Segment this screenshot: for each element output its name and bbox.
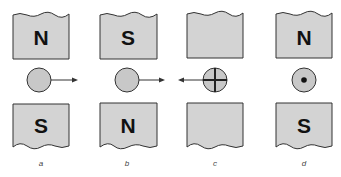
arrow-head [72, 78, 78, 83]
panel-label: a [39, 159, 44, 168]
pole-label-bottom: S [34, 114, 48, 137]
arrow-head [159, 78, 165, 83]
pole-label-bottom: S [297, 114, 311, 137]
pole-label-top: N [296, 26, 311, 49]
panel-a: N S a [13, 12, 78, 168]
pole-label-top: S [121, 26, 135, 49]
panel-b: S N b [100, 12, 165, 168]
magnet-top [187, 11, 243, 58]
arrow-head [178, 78, 184, 83]
panel-c: c [178, 11, 243, 168]
conductor [115, 68, 139, 92]
conductor [27, 68, 51, 92]
pole-label-bottom: N [120, 114, 135, 137]
panel-label: c [213, 159, 217, 168]
pole-label-top: N [33, 26, 48, 49]
panel-label: b [125, 159, 130, 168]
magnet-bottom [187, 103, 243, 149]
dot-icon [301, 77, 307, 83]
panel-label: d [302, 159, 307, 168]
panel-d: N S d [276, 11, 332, 168]
magnet-diagram: N S a S N b c N S d [0, 0, 341, 177]
